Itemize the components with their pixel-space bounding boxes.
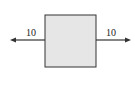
left-force-arrow (10, 38, 45, 43)
arrowhead-right-icon (125, 38, 131, 43)
arrowhead-left-icon (10, 38, 16, 43)
right-force-label: 10 (106, 27, 116, 38)
right-force-arrow (96, 38, 131, 43)
box (45, 15, 96, 67)
force-diagram: 10 10 (0, 0, 135, 88)
left-force-label: 10 (26, 27, 36, 38)
